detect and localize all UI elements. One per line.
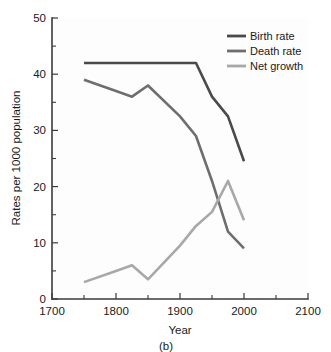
y-tick-label: 10: [33, 237, 46, 249]
legend-label-death-rate: Death rate: [250, 45, 301, 57]
x-tick-label: 1700: [39, 305, 65, 317]
legend-label-birth-rate: Birth rate: [250, 30, 295, 42]
x-tick-label: 1900: [167, 305, 193, 317]
x-tick-label: 1800: [103, 305, 129, 317]
line-chart: 01020304050 17001800190020002100 Birth r…: [0, 0, 331, 352]
y-tick-label: 30: [33, 124, 46, 136]
chart-legend: Birth rateDeath rateNet growth: [227, 30, 303, 72]
y-axis-title: Rates per 1000 population: [10, 91, 22, 226]
y-tick-label: 50: [33, 12, 46, 24]
y-tick-label: 40: [33, 68, 46, 80]
x-axis-title: Year: [168, 324, 191, 336]
y-axis-tick-labels: 01020304050: [33, 12, 46, 305]
x-axis-tick-labels: 17001800190020002100: [39, 305, 321, 317]
figure-caption: (b): [159, 340, 173, 352]
y-tick-label: 0: [40, 293, 46, 305]
y-tick-label: 20: [33, 181, 46, 193]
figure-panel-b: 01020304050 17001800190020002100 Birth r…: [0, 0, 331, 352]
legend-label-net-growth: Net growth: [250, 60, 303, 72]
x-tick-label: 2100: [295, 305, 321, 317]
x-tick-label: 2000: [231, 305, 257, 317]
